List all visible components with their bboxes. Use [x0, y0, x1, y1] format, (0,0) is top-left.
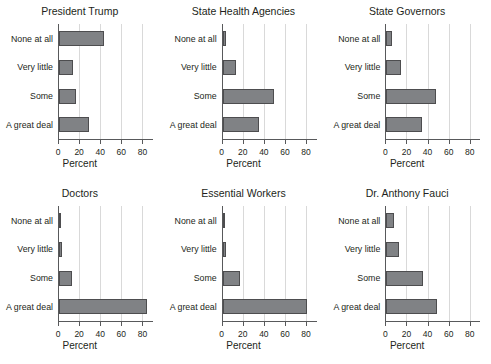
- bar: [386, 60, 401, 75]
- bar-row: Very little: [223, 235, 317, 264]
- x-axis-tick: [222, 322, 223, 326]
- x-axis-tick: [142, 140, 143, 144]
- bar-row: A great deal: [386, 292, 480, 321]
- panel-title: Essential Workers: [164, 187, 324, 200]
- small-multiples-figure: President Trump020406080None at allVery …: [0, 0, 491, 364]
- category-label: A great deal: [333, 119, 380, 130]
- category-label: Some: [194, 273, 217, 284]
- category-label: None at all: [338, 33, 380, 44]
- x-axis-tick: [79, 140, 80, 144]
- bar: [223, 60, 237, 75]
- x-axis-tick: [243, 322, 244, 326]
- bar-row: None at all: [59, 206, 153, 235]
- bar-row: A great deal: [223, 292, 317, 321]
- bar-series: None at allVery littleSomeA great deal: [59, 206, 153, 321]
- x-axis-tick: [306, 322, 307, 326]
- plot-area: 020406080None at allVery littleSomeA gre…: [385, 24, 480, 140]
- bar: [223, 271, 240, 286]
- bar: [59, 271, 72, 286]
- x-axis-tick: [142, 322, 143, 326]
- category-label: A great deal: [170, 301, 217, 312]
- x-axis-tick: [449, 140, 450, 144]
- category-label: Some: [194, 91, 217, 102]
- bar-row: A great deal: [59, 292, 153, 321]
- x-axis-tick: [222, 140, 223, 144]
- x-axis-tick-label: 20: [402, 329, 411, 339]
- bar: [223, 117, 259, 132]
- panel-title: President Trump: [0, 5, 160, 18]
- x-axis-tick-label: 80: [465, 147, 474, 157]
- bar: [386, 117, 422, 132]
- bar: [59, 299, 147, 314]
- x-axis-tick-label: 40: [259, 329, 268, 339]
- bar-series: None at allVery littleSomeA great deal: [59, 24, 153, 139]
- bar: [59, 89, 76, 104]
- x-axis-tick-label: 80: [465, 329, 474, 339]
- x-axis-tick-label: 40: [423, 329, 432, 339]
- category-label: Some: [357, 273, 380, 284]
- x-axis-tick-label: 40: [259, 147, 268, 157]
- category-label: Very little: [17, 244, 53, 255]
- chart-panel: State Health Agencies020406080None at al…: [164, 0, 328, 182]
- bar: [386, 242, 399, 257]
- x-axis-tick: [285, 322, 286, 326]
- category-label: None at all: [175, 33, 217, 44]
- x-axis-tick: [428, 322, 429, 326]
- x-axis-tick-label: 20: [74, 329, 83, 339]
- category-label: Some: [30, 273, 53, 284]
- x-axis-tick-label: 60: [280, 147, 289, 157]
- x-axis-tick-label: 40: [95, 147, 104, 157]
- x-axis-tick: [306, 140, 307, 144]
- x-axis-title: Percent: [164, 158, 324, 170]
- bar: [59, 242, 62, 257]
- plot-area: 020406080None at allVery littleSomeA gre…: [222, 24, 317, 140]
- x-axis-title: Percent: [327, 340, 487, 352]
- x-axis-tick: [121, 140, 122, 144]
- panel-title: Doctors: [0, 187, 160, 200]
- x-axis-tick-label: 0: [56, 329, 61, 339]
- x-axis-tick-label: 20: [74, 147, 83, 157]
- chart-panel: Essential Workers020406080None at allVer…: [164, 182, 328, 364]
- plot-area: 020406080None at allVery littleSomeA gre…: [222, 206, 317, 322]
- bar-row: A great deal: [386, 110, 480, 139]
- x-axis-title: Percent: [327, 158, 487, 170]
- bar: [386, 271, 423, 286]
- x-axis-tick-label: 0: [383, 147, 388, 157]
- bar: [59, 117, 89, 132]
- panel-title: State Health Agencies: [164, 5, 324, 18]
- category-label: A great deal: [6, 119, 53, 130]
- bar-series: None at allVery littleSomeA great deal: [386, 24, 480, 139]
- plot-area: 020406080None at allVery littleSomeA gre…: [385, 206, 480, 322]
- bar-series: None at allVery littleSomeA great deal: [223, 24, 317, 139]
- bar: [386, 89, 436, 104]
- x-axis-tick-label: 80: [138, 147, 147, 157]
- bar: [386, 213, 393, 228]
- x-axis-tick: [58, 140, 59, 144]
- panel-title: Dr. Anthony Fauci: [327, 187, 487, 200]
- bar: [386, 31, 391, 46]
- bar-row: Very little: [386, 53, 480, 82]
- bar-row: Very little: [59, 235, 153, 264]
- x-axis-title: Percent: [0, 158, 160, 170]
- x-axis-tick-label: 60: [117, 147, 126, 157]
- bar: [59, 31, 104, 46]
- bar-row: Some: [59, 264, 153, 293]
- category-label: Some: [30, 91, 53, 102]
- category-label: A great deal: [6, 301, 53, 312]
- x-axis-tick: [385, 140, 386, 144]
- x-axis-tick: [470, 322, 471, 326]
- x-axis-title: Percent: [164, 340, 324, 352]
- x-axis-tick: [449, 322, 450, 326]
- x-axis-tick-label: 60: [444, 329, 453, 339]
- bar-row: Some: [386, 82, 480, 111]
- x-axis-tick-label: 20: [238, 329, 247, 339]
- x-axis-tick: [58, 322, 59, 326]
- x-axis-tick: [100, 140, 101, 144]
- x-axis-tick-label: 40: [423, 147, 432, 157]
- x-axis-tick-label: 20: [238, 147, 247, 157]
- category-label: None at all: [338, 215, 380, 226]
- category-label: Very little: [345, 244, 381, 255]
- bar: [59, 213, 61, 228]
- x-axis-tick: [264, 140, 265, 144]
- category-label: Very little: [181, 244, 217, 255]
